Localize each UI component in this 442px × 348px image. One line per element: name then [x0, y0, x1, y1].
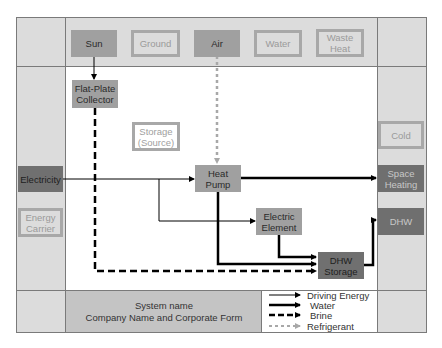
- source-ground-label: Ground: [140, 38, 172, 49]
- electric-element: Electric Element: [256, 208, 302, 235]
- storage-source-label: Storage (Source): [137, 126, 175, 148]
- source-sun-label: Sun: [86, 38, 103, 49]
- source-waste-heat-label: Waste Heat: [325, 32, 355, 54]
- source-air: Air: [194, 30, 240, 57]
- heat-pump-label: Heat Pump: [203, 168, 233, 190]
- electricity-label: Electricity: [20, 174, 61, 185]
- heat-pump: Heat Pump: [195, 165, 241, 192]
- footer-title-block: System name Company Name and Corporate F…: [66, 300, 262, 324]
- energy-carrier-label: Energy Carrier: [23, 212, 58, 234]
- source-ground: Ground: [131, 30, 180, 57]
- company-name: Company Name and Corporate Form: [66, 312, 262, 324]
- source-air-label: Air: [211, 38, 223, 49]
- flat-plate-collector: Flat-Plate Collector: [72, 80, 118, 108]
- source-water: Water: [254, 30, 302, 57]
- source-water-label: Water: [266, 38, 291, 49]
- sink-cold: Cold: [378, 121, 424, 149]
- electric-element-label: Electric Element: [258, 211, 300, 233]
- system-name: System name: [66, 300, 262, 312]
- storage-source: Storage (Source): [132, 122, 180, 151]
- sink-space-heating-label: Space Heating: [378, 168, 424, 190]
- source-sun: Sun: [71, 30, 117, 57]
- legend-refrigerant: Refrigerant: [307, 320, 354, 332]
- sink-dhw: DHW: [378, 208, 424, 235]
- legend-refrigerant-label: Refrigerant: [307, 321, 354, 332]
- legend-brine-label: Brine: [310, 310, 332, 321]
- dhw-storage: DHW Storage: [318, 252, 364, 279]
- sink-cold-label: Cold: [391, 130, 411, 141]
- electricity: Electricity: [18, 166, 63, 192]
- collector-label: Flat-Plate Collector: [74, 83, 116, 105]
- source-waste-heat: Waste Heat: [316, 29, 364, 57]
- dhw-storage-label: DHW Storage: [322, 255, 360, 277]
- sink-space-heating: Space Heating: [378, 165, 424, 192]
- energy-carrier: Energy Carrier: [18, 208, 63, 237]
- sink-dhw-label: DHW: [390, 216, 413, 227]
